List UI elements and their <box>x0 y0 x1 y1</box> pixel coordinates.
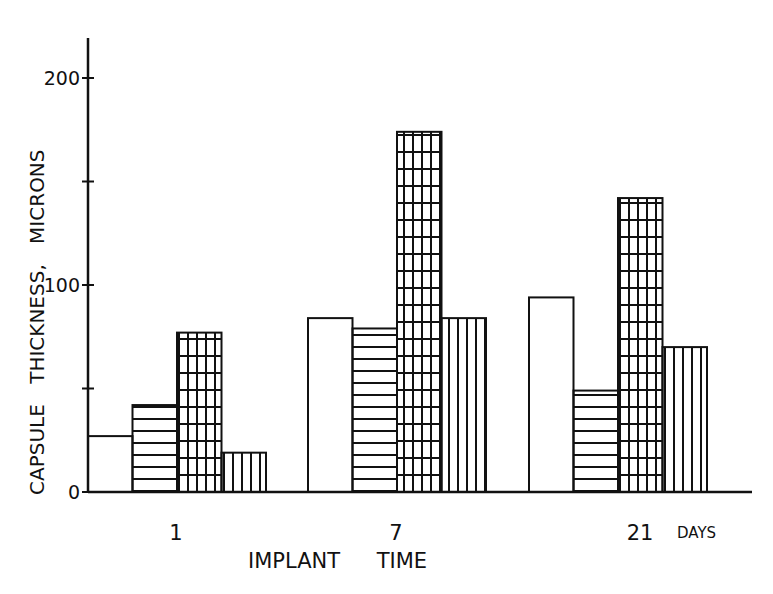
bar-horizontal-day-21 <box>574 391 619 492</box>
y-axis: 0100200 <box>44 38 94 503</box>
bars-group <box>88 132 707 492</box>
bar-none-day-7 <box>308 318 353 492</box>
y-tick-label: 200 <box>44 67 80 89</box>
x-category-label: 21 <box>627 521 654 545</box>
bar-grid-day-1 <box>177 333 222 492</box>
x-unit-label: DAYS <box>677 524 716 542</box>
bar-horizontal-day-1 <box>133 405 178 492</box>
y-tick-label: 100 <box>44 274 80 296</box>
bar-none-day-1 <box>88 436 133 492</box>
x-axis-label: IMPLANT TIME <box>248 549 427 573</box>
x-category-label: 1 <box>169 521 182 545</box>
bar-none-day-21 <box>529 297 574 492</box>
y-axis-label: CAPSULE THICKNESS, MICRONS <box>25 149 49 495</box>
y-tick-label: 0 <box>68 481 80 503</box>
x-category-label: 7 <box>389 521 402 545</box>
bar-vertical-day-7 <box>442 318 487 492</box>
bar-vertical-day-21 <box>663 347 708 492</box>
bar-horizontal-day-7 <box>353 328 398 492</box>
bar-chart: 0100200 1721 DAYS IMPLANT TIME CAPSULE T… <box>0 0 773 594</box>
bar-vertical-day-1 <box>222 453 267 492</box>
bar-grid-day-21 <box>618 198 663 492</box>
bar-grid-day-7 <box>397 132 442 492</box>
